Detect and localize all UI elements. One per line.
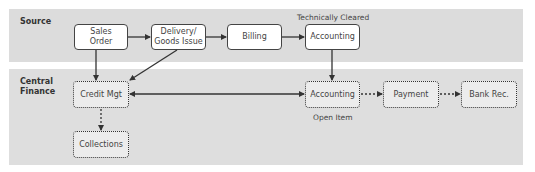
sales-order-node[interactable]: Sales Order bbox=[74, 24, 128, 50]
delivery-line1: Delivery/ bbox=[154, 27, 202, 37]
accounting-central-node[interactable]: Accounting bbox=[305, 81, 360, 108]
source-lane-label: Source bbox=[20, 17, 51, 27]
payment-node[interactable]: Payment bbox=[383, 81, 439, 108]
open-item-note: Open Item bbox=[313, 113, 353, 122]
billing-label: Billing bbox=[242, 32, 267, 42]
accounting-source-node[interactable]: Accounting bbox=[305, 24, 360, 50]
sales-order-line1: Sales bbox=[90, 27, 113, 37]
technically-cleared-note: Technically Cleared bbox=[297, 13, 369, 22]
billing-node[interactable]: Billing bbox=[227, 24, 282, 50]
collections-node[interactable]: Collections bbox=[73, 131, 129, 158]
bank-rec-node[interactable]: Bank Rec. bbox=[461, 81, 517, 108]
delivery-goods-issue-node[interactable]: Delivery/ Goods Issue bbox=[151, 24, 206, 50]
credit-mgt-node[interactable]: Credit Mgt bbox=[73, 81, 129, 108]
accounting-source-label: Accounting bbox=[310, 32, 355, 42]
credit-mgt-label: Credit Mgt bbox=[80, 90, 122, 100]
payment-label: Payment bbox=[393, 90, 428, 100]
delivery-line2: Goods Issue bbox=[154, 37, 202, 47]
central-finance-lane-label: Central Finance bbox=[20, 77, 55, 97]
accounting-central-label: Accounting bbox=[310, 90, 355, 100]
source-label-text: Source bbox=[20, 17, 51, 26]
central-label-line1: Central bbox=[20, 77, 55, 87]
bank-rec-label: Bank Rec. bbox=[469, 90, 509, 100]
sales-order-line2: Order bbox=[90, 37, 113, 47]
central-label-line2: Finance bbox=[20, 87, 55, 97]
collections-label: Collections bbox=[79, 140, 123, 150]
